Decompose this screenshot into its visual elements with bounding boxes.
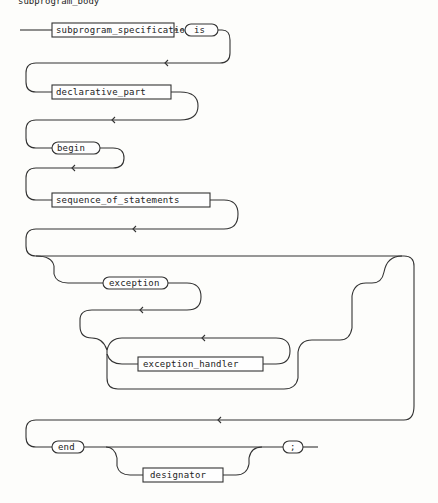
handler-loop-left	[107, 338, 122, 350]
exception-section: exception exception_handler	[26, 256, 414, 447]
designator-branch-out	[223, 447, 262, 475]
row1-return-path	[26, 30, 230, 92]
exception-keyword-label: exception	[109, 278, 160, 288]
designator-label: designator	[150, 470, 207, 480]
end-keyword-label: end	[58, 442, 75, 452]
semicolon-label: ;	[290, 442, 296, 452]
row-sequence-of-statements: sequence_of_statements	[26, 193, 238, 256]
diagram-heading: subprogram_body	[18, 0, 100, 6]
row-begin: begin	[26, 142, 124, 200]
row-declarative-part: declarative_part	[26, 85, 198, 148]
is-keyword-label: is	[194, 25, 205, 35]
row4-return-path	[26, 200, 238, 256]
exception-branch-path	[36, 256, 103, 283]
handler-entry-path	[92, 338, 138, 364]
designator-branch-in	[106, 447, 143, 475]
exception-handler-label: exception_handler	[143, 359, 239, 369]
begin-keyword-label: begin	[57, 143, 85, 153]
row-end: end ; designator	[52, 441, 318, 482]
row3-return-path	[26, 148, 124, 200]
exception-rejoin-path	[312, 256, 402, 340]
sequence-of-statements-label: sequence_of_statements	[56, 195, 180, 205]
subprogram-specification-label: subprogram_specification	[56, 25, 191, 35]
row-subprogram-specification: subprogram_specification is	[20, 23, 230, 92]
syntax-diagram: subprogram_body subprogram_specification…	[0, 0, 438, 503]
declarative-part-label: declarative_part	[56, 87, 146, 97]
